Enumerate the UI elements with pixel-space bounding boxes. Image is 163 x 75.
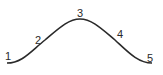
point-label-5: 5 xyxy=(147,52,153,64)
bell-curve-line xyxy=(7,19,152,63)
bell-curve-diagram: 1 2 3 4 5 xyxy=(0,0,163,75)
point-label-1: 1 xyxy=(5,50,11,62)
point-label-3: 3 xyxy=(77,7,83,19)
point-label-2: 2 xyxy=(35,34,41,46)
point-label-4: 4 xyxy=(117,28,123,40)
